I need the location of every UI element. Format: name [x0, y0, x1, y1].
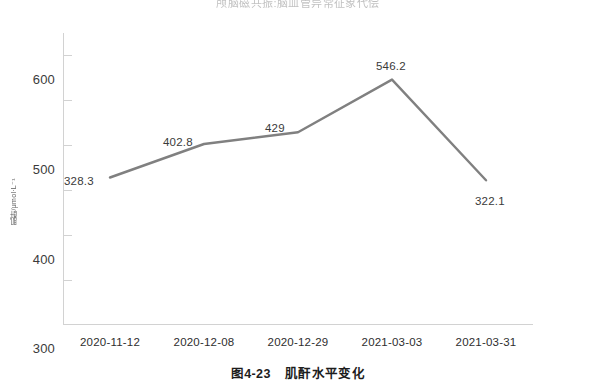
y-tick-label: 500: [33, 161, 55, 176]
data-point-label: 328.3: [64, 175, 94, 187]
y-axis-title: 肌酐/μmol·L⁻¹: [10, 178, 22, 225]
x-tick-label: 2021-03-03: [362, 336, 423, 348]
x-tick-label: 2020-11-12: [80, 336, 140, 348]
y-tick-mark: 200: [64, 235, 72, 236]
y-tick-label: 400: [33, 251, 55, 266]
figure-caption: 图4-23肌酐水平变化: [0, 363, 596, 382]
y-tick-mark: 500: [64, 100, 72, 101]
x-tick-label: 2020-12-08: [174, 336, 235, 348]
x-tick-label: 2020-12-29: [268, 336, 329, 348]
data-point-label: 546.2: [376, 60, 406, 72]
y-tick-mark: 300: [64, 190, 72, 191]
figure-number: 图4-23: [231, 367, 271, 381]
y-tick-mark: 600: [64, 55, 72, 56]
figure-creatinine-level: 肌酐/μmol·L⁻¹ 100200300400500600 2020-11-1…: [0, 0, 596, 385]
y-tick-label: 600: [33, 71, 55, 86]
data-point-label: 402.8: [163, 136, 193, 148]
data-point-label: 429: [265, 122, 285, 134]
figure-title: 肌酐水平变化: [285, 367, 365, 381]
y-tick-mark: 100: [64, 280, 72, 281]
data-point-label: 322.1: [475, 195, 505, 207]
plot-area: 100200300400500600: [63, 33, 533, 325]
y-tick-mark: 400: [64, 145, 72, 146]
y-tick-label: 300: [33, 341, 55, 356]
x-tick-label: 2021-03-31: [456, 336, 517, 348]
